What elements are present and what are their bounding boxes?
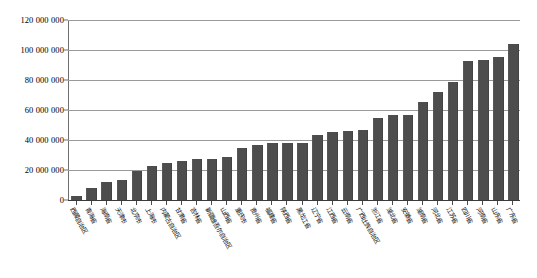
x-tick-mark [241,201,242,205]
x-tick-label: 福建省 [263,206,278,225]
bar [343,131,353,200]
bar [282,143,292,200]
bar [252,145,262,200]
bar [358,130,368,200]
bar [508,44,518,200]
x-tick-label: 湖南省 [414,206,429,225]
x-tick-label: 上海市 [143,206,158,225]
gridline [68,50,520,51]
x-tick-label: 重庆市 [233,206,248,225]
x-tick-mark [136,201,137,205]
bar [86,188,96,200]
y-tick-label: 60 000 000 [25,105,64,115]
x-tick-mark [121,201,122,205]
x-tick-label: 江苏省 [444,206,459,225]
x-tick-label: 北京市 [128,206,143,225]
x-tick-label: 四川省 [459,206,474,225]
x-tick-mark [467,201,468,205]
x-tick-label: 安徽省 [399,206,414,225]
bar [267,143,277,200]
bar [478,60,488,200]
x-tick-label: 河南省 [474,206,489,225]
x-tick-mark [151,201,152,205]
x-tick-mark [181,201,182,205]
bar [493,57,503,200]
x-tick-label: 江西省 [324,206,339,225]
y-tick-label: 40 000 000 [25,135,64,145]
x-tick-mark [256,201,257,205]
y-tick-label: 100 000 000 [20,45,64,55]
bar [71,196,81,201]
y-axis-labels: 120 000 000100 000 00080 000 00060 000 0… [0,0,64,278]
y-tick-label: 120 000 000 [20,15,64,25]
bar [222,157,232,201]
x-tick-mark [302,201,303,205]
y-tick-label: 80 000 000 [25,75,64,85]
x-tick-mark [106,201,107,205]
x-tick-label: 海南省 [98,206,113,225]
x-tick-mark [377,201,378,205]
x-tick-mark [482,201,483,205]
x-tick-mark [392,201,393,205]
gridline [68,20,520,21]
x-tick-mark [347,201,348,205]
bar [388,115,398,201]
x-tick-label: 湖北省 [384,206,399,225]
x-tick-label: 云南省 [339,206,354,225]
bar [117,180,127,200]
x-tick-mark [437,201,438,205]
bar [418,102,428,200]
x-tick-mark [497,201,498,205]
x-tick-label: 甘肃省 [173,206,188,225]
x-tick-mark [422,201,423,205]
x-tick-label: 广东省 [504,206,519,225]
x-tick-label: 陕西省 [278,206,293,225]
bar [192,159,202,200]
x-tick-label: 吉林省 [188,206,203,225]
x-tick-mark [317,201,318,205]
bar [207,159,217,200]
x-tick-mark [166,201,167,205]
x-tick-mark [332,201,333,205]
x-tick-label: 贵州省 [248,206,263,225]
bar [101,182,111,200]
x-tick-mark [362,201,363,205]
x-tick-mark [452,201,453,205]
bar [433,92,443,200]
bar [373,118,383,200]
x-tick-mark [271,201,272,205]
bar-chart: 120 000 000100 000 00080 000 00060 000 0… [0,0,537,278]
bar [162,163,172,201]
x-tick-mark [196,201,197,205]
bar [312,135,322,200]
x-tick-label: 浙江省 [369,206,384,225]
plot-area [68,20,520,200]
x-tick-mark [211,201,212,205]
x-tick-mark [226,201,227,205]
x-tick-mark [76,201,77,205]
bar [463,61,473,201]
bar [132,171,142,200]
bar [177,161,187,200]
bar [147,166,157,201]
bar [237,148,247,200]
x-tick-label: 山东省 [489,206,504,225]
bar [297,143,307,200]
bar [448,82,458,200]
x-tick-label: 河北省 [429,206,444,225]
y-tick-label: 20 000 000 [25,165,64,175]
x-tick-mark [407,201,408,205]
x-tick-mark [91,201,92,205]
x-tick-mark [286,201,287,205]
x-tick-mark [512,201,513,205]
x-axis-labels: 西藏自治区青海省海南省天津市北京市上海市内蒙古自治区甘肃省吉林省新疆维吾尔自治区… [68,206,520,278]
bar [403,115,413,200]
x-tick-label: 山西省 [218,206,233,225]
x-tick-label: 天津市 [113,206,128,225]
bar [327,132,337,200]
